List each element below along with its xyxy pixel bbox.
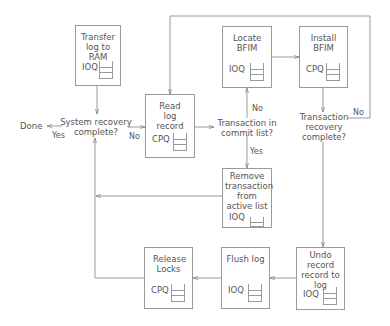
- box-title: Undo record record to log: [297, 250, 344, 290]
- queue-stack-icon: [323, 287, 337, 305]
- box-release-locks: Release Locks CPQ: [144, 247, 193, 309]
- box-title: Transfer log to RAM: [76, 32, 120, 62]
- decision-system-recovery: System recovery complete?: [60, 117, 132, 137]
- queue-label: IOQ: [229, 64, 245, 74]
- queue-stack-icon: [248, 284, 262, 302]
- box-locate-bfim: Locate BFIM IOQ: [222, 26, 272, 88]
- queue-stack-icon: [173, 133, 187, 151]
- queue-stack-icon: [250, 63, 264, 81]
- queue-stack-icon: [99, 61, 113, 79]
- box-read-log-record: Read log record CPQ: [145, 94, 195, 158]
- box-title: Flush log: [222, 254, 269, 264]
- box-transfer-log: Transfer log to RAM IOQ: [75, 25, 121, 86]
- queue-label: IOQ: [228, 285, 244, 295]
- box-flush-log: Flush log IOQ: [221, 247, 270, 309]
- box-undo-record: Undo record record to log IOQ: [296, 247, 345, 310]
- terminal-done: Done: [20, 121, 42, 131]
- queue-stack-icon: [326, 63, 340, 81]
- box-title: Install BFIM: [300, 33, 347, 53]
- edge-label-yes-done: Yes: [52, 131, 65, 140]
- box-install-bfim: Install BFIM CPQ: [299, 26, 348, 88]
- box-title: Read log record: [146, 101, 194, 131]
- queue-label: CPQ: [306, 64, 324, 74]
- decision-transaction-recovery: Transaction recovery complete?: [295, 112, 353, 142]
- queue-stack-icon: [250, 217, 264, 227]
- box-remove-transaction: Remove transaction from active list IOQ: [222, 168, 272, 228]
- box-title: Release Locks: [145, 254, 192, 274]
- edge-label-no-loop: No: [353, 108, 364, 117]
- queue-stack-icon: [171, 284, 185, 302]
- queue-label: CPQ: [152, 134, 170, 144]
- box-title: Locate BFIM: [223, 33, 271, 53]
- queue-label: CPQ: [151, 285, 169, 295]
- queue-label: IOQ: [82, 62, 98, 72]
- edge-label-no-read: No: [129, 132, 140, 141]
- queue-label: IOQ: [303, 289, 319, 299]
- box-title: Remove transaction from active list: [223, 171, 271, 211]
- edge-label-no-locate: No: [252, 104, 263, 113]
- queue-label: IOQ: [229, 212, 245, 222]
- edge-label-yes-remove: Yes: [250, 147, 263, 156]
- decision-commit-list: Transaction in commit list?: [213, 118, 281, 138]
